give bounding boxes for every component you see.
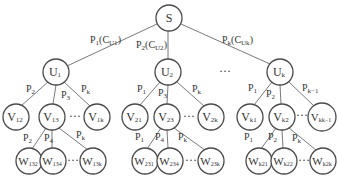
edge-label-v23-w234: P4 (155, 131, 165, 144)
edge-label-u1-v13: P3 (61, 89, 71, 102)
edge-label-v13-w13k: Pk (76, 129, 86, 142)
ellipsis-u1: ··· (69, 109, 81, 123)
node-v1k: V1k (84, 104, 110, 130)
node-w132: W132 (16, 148, 42, 174)
edge-v23-w234 (167, 130, 168, 148)
node-wk2k: Wk2k (310, 148, 336, 174)
node-v12: V12 (3, 104, 29, 130)
node-s: S (156, 5, 182, 31)
edge-label-u2-v2k: Pk (192, 83, 202, 96)
node-wk21: Wk21 (246, 148, 272, 174)
node-uk: Uk (267, 59, 293, 85)
node-v2k: V2k (198, 104, 224, 130)
ellipsis-v13: ··· (67, 153, 79, 167)
tree-diagram: P1(CU1) P2(CU2) Pk(CUk) P2 P3 Pk P1 P3 P… (0, 0, 338, 181)
node-vkk1: Vkk−1 (308, 103, 336, 131)
edge-label-uk-vkk1: Pk−1 (302, 82, 319, 95)
edge-label-v23-w231: P1 (135, 131, 145, 144)
node-w23k: W23k (198, 148, 224, 174)
edge-label-s-u2: P2(CU2) (136, 39, 167, 52)
svg-text:S: S (166, 11, 173, 25)
edge-vk2-wk22 (282, 130, 283, 148)
node-v13: V13 (39, 104, 65, 130)
edge-label-vk2-wk2k: Pk (292, 132, 302, 145)
edge-label-s-u1: P1(CU1) (90, 34, 121, 47)
edge-label-vk2-wk21: P1 (244, 131, 254, 144)
node-u2: U2 (155, 59, 181, 85)
edge-label-v13-w132: P2 (23, 132, 33, 145)
node-vk2: Vk2 (269, 104, 295, 130)
ellipsis-vk2: ··· (298, 153, 310, 167)
node-v23: V23 (154, 104, 180, 130)
node-u1: U1 (43, 59, 69, 85)
edge-label-uk-vk1: P1 (248, 82, 258, 95)
node-w234: W234 (157, 148, 183, 174)
ellipsis-u2: ··· (183, 109, 195, 123)
edge-label-uk-vk2: P2 (266, 88, 276, 101)
edge-label-s-uk: Pk(CUk) (222, 34, 253, 47)
ellipsis-level1: ··· (219, 64, 231, 78)
edge-u1-v13 (53, 85, 56, 104)
edge-u2-v23 (167, 85, 168, 104)
node-vk1: Vk1 (237, 104, 263, 130)
ellipsis-uk: ··· (296, 108, 308, 122)
edge-label-v23-w23k: Pk (178, 131, 188, 144)
edge-label-u1-v1k: Pk (81, 83, 91, 96)
edge-label-u1-v12: P2 (26, 83, 36, 96)
edge-uk-vk2 (280, 85, 281, 104)
node-w13k: W13k (80, 148, 106, 174)
node-w134: W134 (40, 148, 66, 174)
edge-label-u2-v23: P3 (158, 87, 168, 100)
node-v21: V21 (122, 104, 148, 130)
node-wk22: Wk22 (271, 148, 297, 174)
ellipsis-v23: ··· (185, 153, 197, 167)
node-w231: W231 (132, 148, 158, 174)
edge-label-u2-v21: P1 (137, 83, 147, 96)
edge-label-vk2-wk22: P2 (268, 131, 278, 144)
